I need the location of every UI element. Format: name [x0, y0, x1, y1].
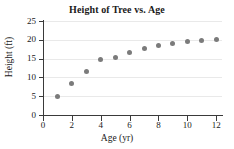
- y-axis-tick-label: 20: [0, 35, 36, 44]
- x-axis-tick-label: 4: [89, 121, 113, 130]
- y-axis-tick-label: 15: [0, 54, 36, 63]
- gridline-y: [43, 59, 222, 60]
- plot-area: [43, 21, 222, 115]
- x-axis-spine: [43, 115, 223, 116]
- y-axis-tick-label: 0: [0, 111, 36, 120]
- data-point: [69, 81, 74, 86]
- y-axis-spine: [43, 20, 44, 116]
- data-point: [113, 55, 118, 60]
- data-point: [156, 43, 161, 48]
- data-point: [185, 39, 190, 44]
- gridline-y: [43, 40, 222, 41]
- x-axis-tick-label: 2: [60, 121, 84, 130]
- data-point: [127, 50, 132, 55]
- x-axis-tick-label: 8: [146, 121, 170, 130]
- data-point: [142, 46, 147, 51]
- data-point: [170, 41, 175, 46]
- y-axis-tick-label: 5: [0, 92, 36, 101]
- y-axis-tick: [39, 21, 44, 22]
- x-axis-label: Age (yr): [0, 133, 234, 143]
- y-axis-tick-label: 25: [0, 17, 36, 26]
- data-point: [98, 57, 103, 62]
- gridline-y: [43, 96, 222, 97]
- data-point: [55, 94, 60, 99]
- y-axis-tick: [39, 59, 44, 60]
- x-axis-tick-label: 6: [118, 121, 142, 130]
- x-axis-tick-label: 12: [204, 121, 228, 130]
- gridline-y: [43, 77, 222, 78]
- data-point: [84, 69, 89, 74]
- data-point: [199, 38, 204, 43]
- x-axis-tick-label: 0: [31, 121, 55, 130]
- gridline-y: [43, 21, 222, 22]
- chart-figure: Height of Tree vs. Age Age (yr) Height (…: [0, 0, 234, 149]
- data-point: [214, 37, 219, 42]
- y-axis-tick: [39, 40, 44, 41]
- y-axis-tick: [39, 96, 44, 97]
- y-axis-tick-label: 10: [0, 73, 36, 82]
- x-axis-tick-label: 10: [175, 121, 199, 130]
- y-axis-tick: [39, 77, 44, 78]
- chart-title: Height of Tree vs. Age: [0, 4, 234, 15]
